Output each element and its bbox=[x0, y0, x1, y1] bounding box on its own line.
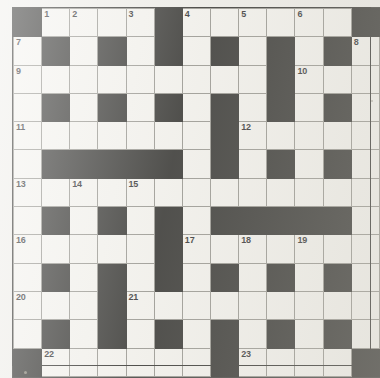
crossword-entry-cell[interactable] bbox=[42, 122, 70, 150]
crossword-entry-cell[interactable] bbox=[239, 263, 267, 291]
crossword-entry-cell[interactable] bbox=[351, 93, 379, 121]
crossword-entry-cell[interactable]: 15 bbox=[126, 178, 154, 206]
crossword-entry-cell[interactable]: 10 bbox=[295, 65, 323, 93]
crossword-entry-cell[interactable] bbox=[14, 93, 42, 121]
crossword-entry-cell[interactable] bbox=[239, 93, 267, 121]
crossword-entry-cell[interactable] bbox=[295, 122, 323, 150]
crossword-entry-cell[interactable] bbox=[182, 320, 210, 348]
crossword-entry-cell[interactable] bbox=[351, 65, 379, 93]
crossword-entry-cell[interactable]: 4 bbox=[182, 9, 210, 37]
crossword-entry-cell[interactable] bbox=[98, 178, 126, 206]
crossword-entry-cell[interactable] bbox=[323, 178, 351, 206]
crossword-entry-cell[interactable]: 17 bbox=[182, 235, 210, 263]
crossword-entry-cell[interactable] bbox=[295, 291, 323, 319]
crossword-entry-cell[interactable] bbox=[295, 263, 323, 291]
crossword-entry-cell[interactable] bbox=[239, 37, 267, 65]
crossword-entry-cell[interactable] bbox=[70, 263, 98, 291]
crossword-entry-cell[interactable] bbox=[267, 9, 295, 37]
crossword-entry-cell[interactable] bbox=[182, 207, 210, 235]
crossword-entry-cell[interactable] bbox=[182, 65, 210, 93]
crossword-entry-cell[interactable] bbox=[42, 235, 70, 263]
crossword-entry-cell[interactable]: 23 bbox=[239, 348, 267, 376]
crossword-entry-cell[interactable] bbox=[323, 348, 351, 376]
crossword-entry-cell[interactable] bbox=[182, 263, 210, 291]
crossword-entry-cell[interactable]: 19 bbox=[295, 235, 323, 263]
crossword-entry-cell[interactable] bbox=[351, 178, 379, 206]
crossword-entry-cell[interactable] bbox=[267, 235, 295, 263]
crossword-entry-cell[interactable] bbox=[295, 178, 323, 206]
crossword-entry-cell[interactable]: 9 bbox=[14, 65, 42, 93]
crossword-entry-cell[interactable] bbox=[351, 263, 379, 291]
crossword-entry-cell[interactable]: 12 bbox=[239, 122, 267, 150]
crossword-entry-cell[interactable] bbox=[323, 235, 351, 263]
crossword-entry-cell[interactable] bbox=[42, 65, 70, 93]
crossword-entry-cell[interactable] bbox=[70, 65, 98, 93]
crossword-entry-cell[interactable] bbox=[14, 150, 42, 178]
crossword-entry-cell[interactable] bbox=[70, 37, 98, 65]
crossword-entry-cell[interactable] bbox=[98, 122, 126, 150]
crossword-entry-cell[interactable] bbox=[267, 178, 295, 206]
crossword-entry-cell[interactable]: 11 bbox=[14, 122, 42, 150]
crossword-entry-cell[interactable] bbox=[323, 291, 351, 319]
crossword-entry-cell[interactable] bbox=[126, 37, 154, 65]
crossword-entry-cell[interactable] bbox=[323, 122, 351, 150]
crossword-entry-cell[interactable]: 2 bbox=[70, 9, 98, 37]
crossword-entry-cell[interactable] bbox=[351, 207, 379, 235]
crossword-entry-cell[interactable] bbox=[42, 178, 70, 206]
crossword-entry-cell[interactable] bbox=[126, 65, 154, 93]
crossword-entry-cell[interactable] bbox=[210, 235, 238, 263]
crossword-entry-cell[interactable] bbox=[126, 263, 154, 291]
crossword-entry-cell[interactable] bbox=[351, 235, 379, 263]
crossword-entry-cell[interactable] bbox=[98, 9, 126, 37]
crossword-entry-cell[interactable] bbox=[239, 150, 267, 178]
crossword-entry-cell[interactable] bbox=[70, 93, 98, 121]
crossword-entry-cell[interactable] bbox=[70, 207, 98, 235]
crossword-entry-cell[interactable] bbox=[295, 93, 323, 121]
crossword-entry-cell[interactable] bbox=[14, 320, 42, 348]
crossword-entry-cell[interactable] bbox=[182, 150, 210, 178]
crossword-entry-cell[interactable] bbox=[70, 348, 98, 376]
crossword-entry-cell[interactable]: 18 bbox=[239, 235, 267, 263]
crossword-entry-cell[interactable] bbox=[295, 37, 323, 65]
crossword-entry-cell[interactable] bbox=[70, 122, 98, 150]
crossword-entry-cell[interactable] bbox=[126, 235, 154, 263]
crossword-entry-cell[interactable] bbox=[14, 207, 42, 235]
crossword-entry-cell[interactable] bbox=[210, 291, 238, 319]
crossword-entry-cell[interactable] bbox=[323, 9, 351, 37]
crossword-entry-cell[interactable] bbox=[182, 291, 210, 319]
crossword-entry-cell[interactable] bbox=[98, 65, 126, 93]
crossword-entry-cell[interactable] bbox=[70, 235, 98, 263]
crossword-entry-cell[interactable] bbox=[210, 65, 238, 93]
crossword-entry-cell[interactable] bbox=[126, 122, 154, 150]
crossword-entry-cell[interactable] bbox=[42, 291, 70, 319]
crossword-entry-cell[interactable] bbox=[154, 291, 182, 319]
crossword-entry-cell[interactable]: 14 bbox=[70, 178, 98, 206]
crossword-entry-cell[interactable] bbox=[239, 291, 267, 319]
crossword-entry-cell[interactable] bbox=[98, 348, 126, 376]
crossword-entry-cell[interactable]: 8 bbox=[351, 37, 379, 65]
crossword-entry-cell[interactable] bbox=[295, 150, 323, 178]
crossword-entry-cell[interactable] bbox=[267, 122, 295, 150]
crossword-entry-cell[interactable] bbox=[154, 178, 182, 206]
crossword-entry-cell[interactable] bbox=[126, 348, 154, 376]
crossword-entry-cell[interactable] bbox=[154, 348, 182, 376]
crossword-entry-cell[interactable] bbox=[182, 93, 210, 121]
crossword-grid[interactable]: 1234567891011121314151617181920212223 bbox=[13, 8, 380, 377]
crossword-entry-cell[interactable] bbox=[210, 9, 238, 37]
crossword-entry-cell[interactable] bbox=[182, 37, 210, 65]
crossword-entry-cell[interactable]: 6 bbox=[295, 9, 323, 37]
crossword-entry-cell[interactable] bbox=[154, 122, 182, 150]
crossword-entry-cell[interactable] bbox=[351, 291, 379, 319]
crossword-entry-cell[interactable] bbox=[295, 348, 323, 376]
crossword-entry-cell[interactable] bbox=[14, 263, 42, 291]
crossword-entry-cell[interactable]: 21 bbox=[126, 291, 154, 319]
crossword-entry-cell[interactable] bbox=[239, 178, 267, 206]
crossword-entry-cell[interactable]: 7 bbox=[14, 37, 42, 65]
crossword-entry-cell[interactable] bbox=[98, 235, 126, 263]
crossword-entry-cell[interactable] bbox=[70, 320, 98, 348]
crossword-entry-cell[interactable] bbox=[126, 207, 154, 235]
crossword-entry-cell[interactable] bbox=[182, 348, 210, 376]
crossword-entry-cell[interactable] bbox=[239, 65, 267, 93]
crossword-entry-cell[interactable] bbox=[182, 178, 210, 206]
crossword-entry-cell[interactable]: 13 bbox=[14, 178, 42, 206]
